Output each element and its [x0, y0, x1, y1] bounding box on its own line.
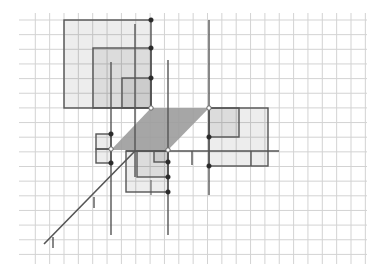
parallelogram — [111, 108, 209, 150]
left-square-upper — [96, 134, 111, 149]
left-square-lower — [96, 149, 111, 163]
point-right-1[interactable] — [207, 135, 212, 140]
point-left-2[interactable] — [109, 161, 114, 166]
diagram-svg — [0, 0, 384, 277]
point-lower-3[interactable] — [166, 190, 171, 195]
point-origin-right[interactable] — [207, 106, 211, 110]
point-origin-upper[interactable] — [149, 106, 153, 110]
right-square-small — [209, 108, 239, 137]
parallelogram-shape — [111, 108, 209, 150]
point-lower-2[interactable] — [166, 175, 171, 180]
geometry-canvas — [0, 0, 384, 277]
point-origin-left[interactable] — [109, 147, 113, 151]
upper-square-small — [122, 78, 151, 108]
point-lower-1[interactable] — [166, 160, 171, 165]
point-left-1[interactable] — [109, 132, 114, 137]
lower-square-small — [154, 151, 168, 162]
point-upper-1[interactable] — [149, 18, 154, 23]
point-upper-2[interactable] — [149, 46, 154, 51]
point-origin-lower[interactable] — [166, 148, 170, 152]
point-upper-3[interactable] — [149, 76, 154, 81]
point-right-2[interactable] — [207, 164, 212, 169]
